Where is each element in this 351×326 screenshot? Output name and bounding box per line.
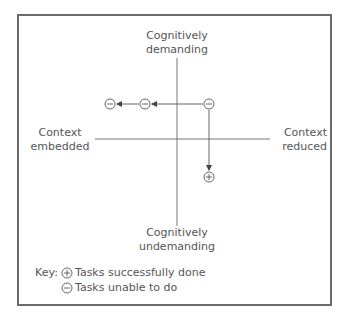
minus-circle-icon: [105, 99, 115, 109]
plus-circle-icon: [204, 172, 214, 182]
label-bottom: Cognitively undemanding: [132, 226, 222, 254]
key-label: Key:: [35, 266, 58, 280]
minus-circle-icon: [204, 99, 214, 109]
key-item-unable: Tasks unable to do: [75, 281, 177, 295]
minus-circle-icon: [140, 99, 150, 109]
label-left: Context embedded: [30, 126, 90, 154]
key-item-success: Tasks successfully done: [75, 266, 205, 280]
label-top: Cognitively demanding: [137, 29, 217, 57]
key-plus-circle-icon: [62, 268, 72, 278]
label-right: Context reduced: [267, 126, 327, 154]
key-minus-circle-icon: [62, 283, 72, 293]
